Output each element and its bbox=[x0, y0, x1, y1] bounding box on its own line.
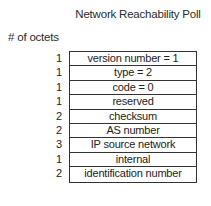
field-code: code = 0 bbox=[70, 81, 196, 95]
octet-count: 1 bbox=[40, 65, 62, 79]
octet-count: 1 bbox=[40, 94, 62, 108]
field-checksum: checksum bbox=[70, 110, 196, 124]
packet-format-table: version number = 1 type = 2 code = 0 res… bbox=[69, 51, 197, 183]
field-as-number: AS number bbox=[70, 124, 196, 138]
octets-column-header: # of octets bbox=[8, 31, 59, 43]
diagram-title: Network Reachability Poll bbox=[68, 8, 208, 20]
octet-count: 2 bbox=[40, 109, 62, 123]
octet-count: 1 bbox=[40, 80, 62, 94]
field-internal: internal bbox=[70, 153, 196, 167]
field-ip-source-network: IP source network bbox=[70, 138, 196, 152]
field-reserved: reserved bbox=[70, 95, 196, 109]
octet-count: 2 bbox=[40, 166, 62, 180]
octet-count: 3 bbox=[40, 137, 62, 151]
octet-count: 2 bbox=[40, 123, 62, 137]
octet-count: 1 bbox=[40, 51, 62, 65]
field-type: type = 2 bbox=[70, 66, 196, 80]
field-identification-number: identification number bbox=[70, 167, 196, 181]
octet-counts-column: 1 1 1 1 2 2 3 1 2 bbox=[40, 51, 62, 181]
field-version-number: version number = 1 bbox=[70, 52, 196, 66]
octet-count: 1 bbox=[40, 152, 62, 166]
